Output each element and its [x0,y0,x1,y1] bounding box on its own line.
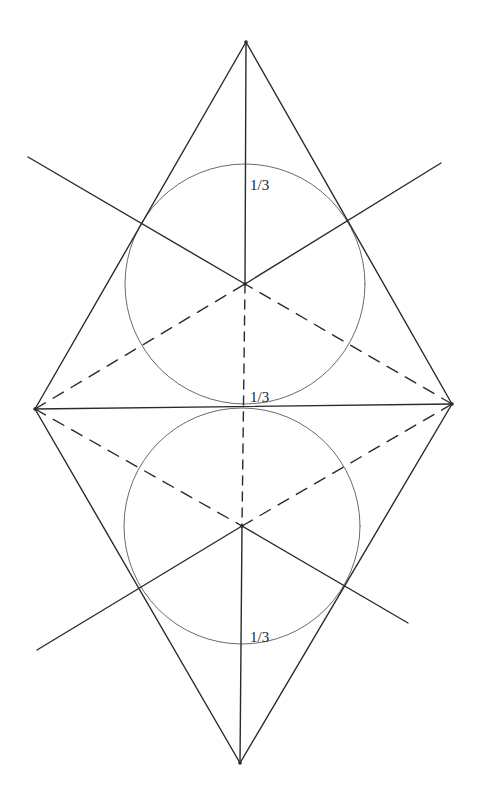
vertex-dot [238,761,242,765]
vertex-dot [33,407,37,411]
vertical-upper-segment [245,42,246,284]
one-third-label-middle: 1/3 [250,389,269,405]
vertical-middle-dashed [242,284,245,526]
one-third-label-upper: 1/3 [250,177,269,193]
vertex-dot [240,524,244,528]
vertex-dot [450,402,454,406]
rhombus-edge-top-right [246,42,452,404]
vertex-dot [243,282,247,286]
one-third-label-lower: 1/3 [250,629,269,645]
rhombus-incircle-diagram: 1/31/31/3 [0,0,478,801]
ray-upper-right [245,163,441,284]
dashed-right-lower [242,404,452,526]
vertical-lower-segment [240,526,242,763]
ray-lower-right [242,526,408,623]
rhombus-edge-bottom-right [240,404,452,763]
ray-lower-left [37,526,242,650]
vertex-dot [244,40,248,44]
ray-upper-left [28,157,245,284]
dashed-left-lower [35,409,242,526]
rhombus-edge-bottom-left [35,409,240,763]
dashed-left-upper [35,284,245,409]
rhombus-edge-top-left [35,42,246,409]
